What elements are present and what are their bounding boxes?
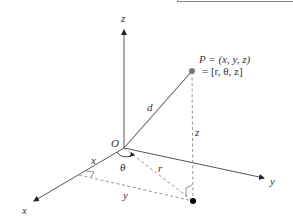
- y-axis-label: y: [269, 175, 275, 187]
- point-P: [189, 68, 195, 74]
- x-axis-label: x: [21, 204, 27, 216]
- theta-label: θ: [120, 161, 126, 173]
- y-axis: [124, 148, 264, 178]
- dashed-r: [124, 148, 193, 201]
- z-height-label: z: [194, 126, 200, 138]
- x-axis: [34, 148, 124, 201]
- dashed-y-segment: [79, 175, 193, 201]
- foot-point: [190, 198, 196, 204]
- y-segment-label: y: [122, 189, 128, 201]
- cylindrical-coordinates-diagram: z y x O d z r θ x y P = (x, y, z) = [r, …: [0, 0, 293, 220]
- distance-d-label: d: [147, 101, 153, 113]
- dashed-z-height: [192, 72, 193, 200]
- segment-d: [124, 71, 192, 148]
- right-angle-x-marker: [86, 171, 94, 177]
- right-angle-foot-marker: [186, 185, 192, 197]
- z-axis-label: z: [120, 12, 126, 24]
- radius-r-label: r: [158, 162, 163, 174]
- point-label-cylindrical: = [r, θ, z]: [202, 65, 243, 77]
- x-segment-label: x: [90, 154, 96, 166]
- origin-label: O: [111, 137, 119, 149]
